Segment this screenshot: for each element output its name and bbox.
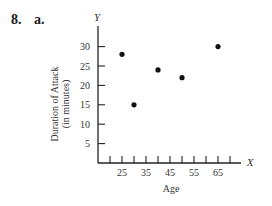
y-axis-ticks: 51015202530	[80, 41, 105, 149]
data-point	[215, 44, 220, 49]
data-point	[155, 67, 160, 72]
y-tick-label: 15	[80, 99, 90, 110]
y-tick-label: 20	[80, 80, 90, 91]
y-axis-title: Duration of Attack (in minutes)	[49, 67, 72, 142]
x-tick-label: 65	[213, 167, 223, 178]
y-tick-label: 10	[80, 119, 90, 130]
x-axis-letter: X	[246, 156, 255, 168]
y-tick-label: 30	[80, 41, 90, 52]
y-tick-label: 5	[85, 138, 90, 149]
data-point	[179, 75, 184, 80]
x-tick-label: 45	[165, 167, 175, 178]
y-axis-title-line-2: (in minutes)	[60, 80, 72, 129]
x-axis-ticks: 2535455565	[110, 156, 230, 178]
y-axis-letter: Y	[94, 11, 102, 23]
x-tick-label: 25	[117, 167, 127, 178]
x-tick-label: 55	[189, 167, 199, 178]
data-point	[131, 102, 136, 107]
x-tick-label: 35	[141, 167, 151, 178]
x-axis-title: Age	[163, 183, 180, 194]
y-axis-title-line-1: Duration of Attack	[49, 67, 60, 142]
data-point	[119, 52, 124, 57]
scatter-chart: 51015202530 2535455565 Y X Age Duration …	[0, 0, 272, 206]
data-points	[119, 44, 220, 107]
y-tick-label: 25	[80, 61, 90, 72]
